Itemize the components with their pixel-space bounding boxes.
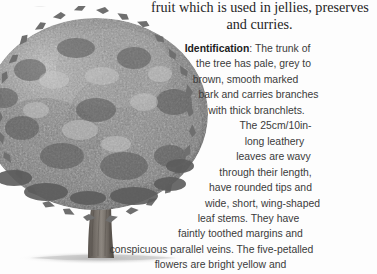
identification-line-14: conspicuous parallel veins. The five-pet… — [0, 242, 377, 257]
identification-line-9: through their length, — [0, 165, 377, 180]
book-page: fruit which is used in jellies, preserve… — [0, 0, 377, 274]
intro-paragraph: fruit which is used in jellies, preserve… — [150, 0, 377, 32]
identification-line-1-text: The trunk of — [255, 43, 310, 54]
identification-line-13: faintly toothed margins and — [0, 226, 377, 241]
intro-line-1: fruit which is used in jellies, preserve… — [151, 0, 377, 16]
identification-line-12: leaf stems. They have — [0, 211, 377, 226]
intro-line-2: and curries. — [142, 16, 377, 33]
identification-line-6: The 25cm/10in- — [0, 118, 377, 133]
identification-line-5: with thick branchlets. — [0, 103, 377, 118]
identification-line-8: leaves are wavy — [0, 149, 377, 164]
identification-heading: Identification — [185, 43, 250, 54]
identification-line-15: flowers are bright yellow and — [0, 257, 377, 272]
identification-line-1: Identification: The trunk of — [0, 41, 377, 56]
identification-line-10: have rounded tips and — [0, 180, 377, 195]
identification-line-4: bark and carries branches — [0, 87, 377, 102]
identification-line-2: the tree has pale, grey to — [0, 56, 377, 71]
identification-line-3: brown, smooth marked — [0, 72, 377, 87]
identification-line-11: wide, short, wing-shaped — [0, 196, 377, 211]
identification-line-7: long leathery — [0, 134, 377, 149]
identification-paragraph: Identification: The trunk of the tree ha… — [0, 41, 377, 274]
